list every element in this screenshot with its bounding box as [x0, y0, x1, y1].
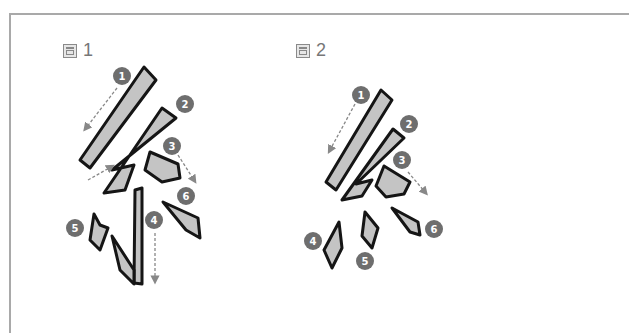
svg-text:4: 4 [151, 215, 158, 226]
svg-text:2: 2 [406, 119, 413, 130]
svg-text:3: 3 [399, 155, 406, 166]
svg-text:1: 1 [358, 90, 365, 101]
svg-text:3: 3 [169, 141, 176, 152]
svg-text:4: 4 [310, 236, 317, 247]
svg-text:2: 2 [182, 99, 189, 110]
svg-text:6: 6 [183, 191, 190, 202]
svg-text:6: 6 [431, 224, 438, 235]
svg-text:5: 5 [72, 223, 79, 234]
svg-text:1: 1 [119, 71, 126, 82]
svg-text:5: 5 [362, 256, 369, 267]
